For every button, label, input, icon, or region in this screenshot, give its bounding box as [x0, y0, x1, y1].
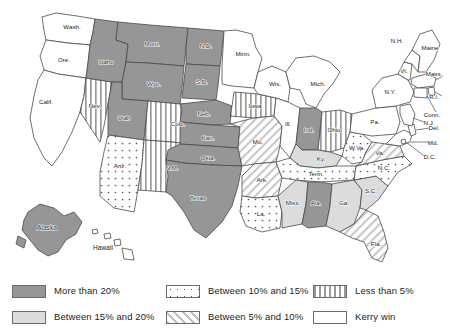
label-LA: La.: [257, 210, 266, 217]
label-AK: Alaska: [37, 224, 57, 231]
label-WA: Wash.: [63, 23, 81, 30]
label-VT: Vt.: [400, 67, 408, 74]
label-AZ: Ariz.: [114, 162, 127, 169]
label-HI: Hawaii: [93, 244, 113, 251]
label-FL: Fla.: [371, 240, 382, 247]
label-PA: Pa.: [370, 118, 380, 125]
state-HI[interactable]: [92, 229, 98, 234]
label-AR: Ark.: [256, 176, 267, 183]
leader-line-dc: [406, 142, 424, 156]
leader-line-nj: [413, 118, 424, 122]
label-AL: Ala.: [311, 199, 322, 206]
label-NY: N.Y.: [384, 88, 396, 95]
legend-item-between-5-and-10[interactable]: Between 5% and 10%: [160, 304, 305, 330]
label-ME: Maine: [422, 44, 439, 51]
state-HI-2[interactable]: [104, 233, 111, 239]
label-OH: Ohio: [327, 126, 341, 133]
legend-swatch-between-15-and-20: [12, 311, 46, 324]
label-MN: Minn.: [235, 50, 250, 57]
label-ID: Idaho: [98, 58, 114, 65]
legend-swatch-between-5-and-10: [166, 311, 200, 324]
us-states-map: Wash. Ore. Calif. Nev. Idaho Mont. Wyo. …: [0, 0, 450, 275]
label-GA: Ga.: [339, 199, 349, 206]
label-NH: N.H.: [391, 37, 404, 44]
label-NE: Neb.: [197, 110, 210, 117]
legend-label-between-10-and-15: Between 10% and 15%: [208, 286, 309, 296]
state-HI-3[interactable]: [114, 239, 121, 246]
state-NV[interactable]: [80, 78, 112, 142]
label-DE: Del.: [428, 124, 439, 131]
label-SC: S.C.: [365, 187, 377, 194]
legend-label-between-5-and-10: Between 5% and 10%: [208, 312, 303, 322]
label-NV: Nev.: [89, 102, 102, 109]
legend-label-less-than-5: Less than 5%: [355, 286, 414, 296]
label-CA: Calif.: [39, 98, 53, 105]
label-MA: Mass.: [426, 70, 443, 77]
legend-item-more-than-20[interactable]: More than 20%: [0, 278, 160, 304]
label-WV: W.Va.: [349, 144, 365, 151]
state-AZ[interactable]: [100, 135, 144, 212]
choropleth-map-figure: Wash. Ore. Calif. Nev. Idaho Mont. Wyo. …: [0, 0, 450, 332]
legend-swatch-more-than-20: [12, 285, 46, 298]
label-RI: R.I.: [429, 93, 439, 100]
label-NM: N.M.: [165, 164, 178, 171]
legend-item-between-15-and-20[interactable]: Between 15% and 20%: [0, 304, 160, 330]
legend-item-between-10-and-15[interactable]: Between 10% and 15%: [160, 278, 305, 304]
label-DC: D.C.: [424, 153, 437, 160]
legend-swatch-kerry-win: [313, 311, 347, 324]
label-IN: Ind.: [304, 126, 315, 133]
label-CO: Colo.: [171, 120, 186, 127]
state-HI-4[interactable]: [122, 248, 134, 260]
legend-label-between-15-and-20: Between 15% and 20%: [54, 312, 155, 322]
label-IA: Iowa: [248, 102, 262, 109]
state-NJ[interactable]: [400, 104, 415, 126]
label-VA: Va.: [376, 149, 385, 156]
label-MI: Mich.: [311, 80, 326, 87]
legend-item-kerry-win[interactable]: Kerry win: [305, 304, 450, 330]
label-ND: N.D.: [200, 42, 213, 49]
label-OK: Okla.: [201, 154, 216, 161]
label-TN: Tenn.: [308, 170, 323, 177]
map-legend: More than 20% Between 10% and 15% Less t…: [0, 278, 450, 332]
label-SD: S.D.: [196, 78, 208, 85]
label-UT: Utah: [117, 114, 131, 121]
label-MD: Md.: [428, 139, 439, 146]
label-CT: Conn.: [424, 111, 441, 118]
legend-swatch-less-than-5: [313, 285, 347, 298]
state-CT[interactable]: [414, 88, 427, 98]
label-NC: N.C.: [378, 164, 391, 171]
legend-label-more-than-20: More than 20%: [54, 286, 120, 296]
state-CA[interactable]: [30, 70, 86, 166]
label-OR: Ore.: [58, 56, 70, 63]
label-KY: Ky.: [317, 155, 326, 162]
state-DC[interactable]: [401, 139, 406, 144]
label-WY: Wyo.: [147, 80, 161, 87]
label-IL: Ill.: [285, 120, 291, 127]
label-TX: Texas: [190, 194, 206, 201]
label-MS: Miss.: [286, 199, 301, 206]
legend-swatch-between-10-and-15: [166, 285, 200, 298]
legend-label-kerry-win: Kerry win: [355, 312, 396, 322]
label-MO: Mo.: [253, 138, 264, 145]
label-MT: Mont.: [144, 40, 160, 47]
label-WI: Wis.: [269, 80, 281, 87]
states-layer: [16, 13, 443, 262]
label-KS: Kan.: [202, 134, 215, 141]
legend-item-less-than-5[interactable]: Less than 5%: [305, 278, 450, 304]
